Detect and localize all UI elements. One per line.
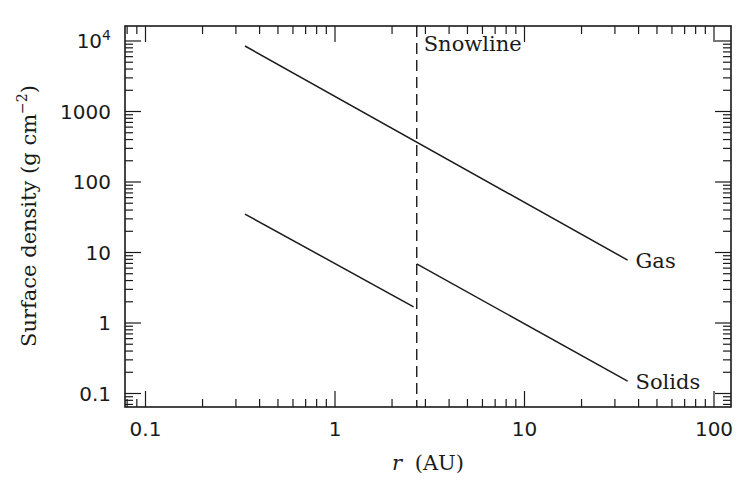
y-axis-label: Surface density (g cm−2): [14, 85, 41, 347]
x-tick-label: 0.1: [130, 417, 162, 441]
y-axis-label-text: Surface density (g cm: [17, 114, 41, 347]
series-label: Solids: [636, 370, 701, 394]
data-series: GasSolids: [245, 46, 700, 394]
tick-labels: 0.11101000.11101001000104: [60, 27, 733, 441]
y-tick-label: 1000: [60, 100, 111, 124]
y-tick-label: 1: [98, 311, 111, 335]
x-tick-label: 1: [329, 417, 342, 441]
y-axis-label-close: ): [17, 85, 41, 93]
axis-ticks: [125, 26, 731, 407]
x-tick-label: 100: [695, 417, 733, 441]
surface-density-chart: 0.11101000.11101001000104 GasSolids Snow…: [0, 0, 752, 495]
series-line-0: [245, 46, 628, 260]
y-tick-label: 10: [86, 241, 111, 265]
x-tick-label: 10: [512, 417, 537, 441]
y-tick-exponent: 4: [102, 27, 111, 43]
plot-frame: [125, 26, 731, 407]
y-tick-base: 10: [77, 29, 102, 53]
snowline-label: Snowline: [424, 32, 522, 56]
y-tick-label: 100: [73, 170, 111, 194]
x-axis-label: r (AU): [392, 451, 464, 475]
y-tick-label: 104: [77, 27, 111, 53]
plot-border: [125, 26, 731, 407]
series-line-1: [245, 214, 414, 307]
x-axis-variable: r: [392, 451, 404, 475]
annotations: Snowline: [417, 26, 522, 407]
y-axis-label-exponent: −2: [14, 93, 30, 114]
series-label: Gas: [636, 249, 676, 273]
y-tick-label: 0.1: [79, 382, 111, 406]
x-axis-unit: (AU): [415, 451, 464, 475]
series-line-2: [417, 264, 628, 381]
